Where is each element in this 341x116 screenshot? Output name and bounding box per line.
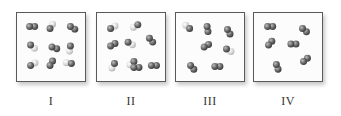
dark-atom: [148, 62, 155, 69]
dark-atom: [26, 23, 33, 30]
dark-atom: [111, 60, 118, 67]
molecule: [27, 59, 38, 69]
molecules-i: [17, 13, 85, 81]
dark-atom: [201, 44, 208, 51]
dark-atom: [47, 62, 54, 69]
molecule: [299, 25, 310, 35]
molecule: [148, 62, 160, 69]
molecule: [130, 21, 141, 31]
molecule: [26, 23, 38, 30]
molecule: [108, 60, 118, 71]
dark-atom: [146, 35, 153, 42]
molecule: [201, 41, 212, 51]
dark-atom: [204, 23, 211, 30]
molecule: [107, 40, 118, 50]
molecule: [27, 42, 38, 52]
molecule: [300, 55, 311, 65]
panel-label-iii: III: [175, 94, 245, 109]
molecule: [223, 45, 234, 55]
dark-atom: [48, 44, 55, 51]
molecule: [187, 62, 197, 73]
molecule: [287, 41, 299, 48]
panel-label-ii: II: [96, 94, 166, 109]
molecule: [204, 23, 212, 35]
molecule: [48, 44, 60, 53]
molecule: [182, 22, 193, 32]
dark-atom: [107, 43, 114, 50]
molecule: [224, 26, 234, 37]
dark-atom: [187, 62, 194, 69]
molecule: [146, 35, 156, 46]
molecules-iv: [254, 13, 322, 81]
dark-atom: [134, 21, 141, 28]
dark-atom: [47, 25, 54, 32]
molecule: [67, 23, 78, 33]
panel-i: [16, 12, 86, 82]
dark-atom: [27, 42, 34, 49]
panel-label-iv: IV: [253, 94, 323, 109]
dark-atom: [224, 26, 231, 33]
dark-atom: [264, 23, 271, 30]
panel-label-i: I: [16, 94, 86, 109]
molecule: [211, 63, 223, 70]
molecule: [264, 23, 276, 30]
panel-iii: [175, 12, 245, 82]
molecule: [107, 23, 118, 33]
molecule: [47, 58, 57, 69]
dark-atom: [287, 41, 294, 48]
dark-atom: [223, 45, 230, 52]
molecule: [130, 64, 142, 71]
dark-atom: [68, 60, 75, 67]
dark-atom: [186, 25, 193, 32]
molecule: [66, 43, 74, 55]
molecule: [265, 38, 275, 49]
dark-atom: [67, 23, 74, 30]
dark-atom: [265, 42, 272, 49]
dark-atom: [67, 43, 74, 50]
molecule: [63, 59, 75, 67]
molecule: [47, 21, 57, 32]
dark-atom: [299, 25, 306, 32]
molecules-ii: [97, 13, 165, 81]
dark-atom: [273, 61, 280, 68]
dark-atom: [107, 25, 114, 32]
panel-iv: [253, 12, 323, 82]
dark-atom: [211, 63, 218, 70]
dark-atom: [27, 62, 34, 69]
dark-atom: [125, 39, 132, 46]
molecule: [125, 39, 136, 49]
molecule: [273, 61, 282, 73]
dark-atom: [130, 64, 137, 71]
molecules-iii: [176, 13, 244, 81]
panel-ii: [96, 12, 166, 82]
dark-atom: [300, 58, 307, 65]
